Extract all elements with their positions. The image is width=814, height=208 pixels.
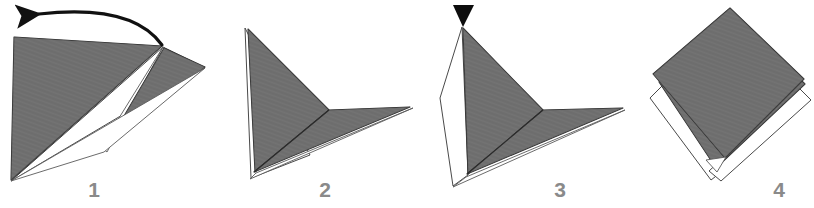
fold-instruction-diagram: 1 2 3 4	[0, 0, 814, 208]
step-4-top-panel	[653, 8, 804, 158]
apex-pointer-marker	[453, 5, 474, 27]
fold-diagram-canvas: 1 2 3 4	[0, 0, 814, 208]
step-label-4: 4	[773, 178, 785, 201]
step-label-3: 3	[554, 178, 566, 201]
step-label-2: 2	[319, 178, 331, 201]
step-4-figure	[650, 8, 811, 181]
step-3-figure	[440, 5, 625, 187]
step-2-figure	[245, 28, 413, 179]
step-label-1: 1	[88, 178, 100, 201]
step-1-figure	[11, 12, 205, 181]
